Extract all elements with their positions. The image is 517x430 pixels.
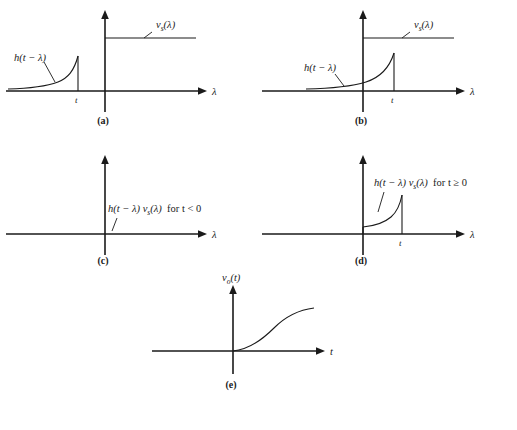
panel-e-x-axis-label: t [330,346,334,357]
panel-b-impulse-label: h(t − λ) [304,62,337,74]
figure-container: h(t − λ) vs(λ) λ t (a) [0,0,517,430]
panel-b-source-leader-line [402,32,410,38]
panel-b-x-axis-label: λ [469,86,475,97]
panel-d-x-axis-arrowhead [456,230,465,238]
panel-e-plot: vo(t) t (e) [128,270,390,430]
panel-a-x-axis-label: λ [211,86,217,97]
panel-a-impulse-label: h(t − λ) [14,52,47,64]
panel-a-source-label: vs(λ) [156,19,176,33]
panel-e-letter: (e) [225,379,236,391]
panel-b: h(t − λ) vs(λ) λ t (b) [258,0,517,138]
panel-a-tick-label-t: t [75,95,78,105]
panel-c: h(t − λ) vs(λ) for t < 0 λ (c) [0,140,256,270]
panel-e-output-curve [233,308,314,351]
panel-b-letter: (b) [355,115,367,127]
panel-d-product-label: h(t − λ) vs(λ) for t ≥ 0 [374,177,467,191]
panel-e-x-axis-arrowhead [316,347,325,355]
panel-c-x-axis-label: λ [211,229,217,240]
panel-b-tick-label-t: t [391,95,394,105]
panel-d-product-curve [363,195,402,227]
panel-c-y-axis-arrowhead [101,155,109,164]
panel-e-y-axis-arrowhead [229,285,237,294]
panel-b-impulse-leader-line [335,74,344,86]
panel-c-x-axis-arrowhead [198,230,207,238]
panel-a-letter: (a) [97,115,109,127]
panel-c-letter: (c) [97,255,108,267]
panel-a-source-leader-line [144,32,152,38]
panel-d-x-axis-label: λ [469,229,475,240]
panel-a: h(t − λ) vs(λ) λ t (a) [0,0,256,138]
panel-d-product-leader-line [378,192,384,212]
panel-d-tick-label-t: t [399,238,402,248]
panel-e-output-label: vo(t) [222,272,241,286]
panel-c-product-leader-line [112,218,117,231]
panel-b-x-axis-arrowhead [456,87,465,95]
panel-c-product-label: h(t − λ) vs(λ) for t < 0 [108,203,201,217]
panel-b-plot: h(t − λ) vs(λ) λ t (b) [258,0,517,138]
panel-d: h(t − λ) vs(λ) for t ≥ 0 λ t (d) [258,140,517,270]
panel-a-y-axis-arrowhead [101,10,109,19]
panel-d-y-axis-arrowhead [359,155,367,164]
panel-d-letter: (d) [355,255,367,267]
panel-d-plot: h(t − λ) vs(λ) for t ≥ 0 λ t (d) [258,140,517,270]
panel-b-y-axis-arrowhead [359,10,367,19]
panel-a-impulse-leader-line [44,62,55,82]
panel-a-plot: h(t − λ) vs(λ) λ t (a) [0,0,256,138]
panel-e: vo(t) t (e) [128,270,390,430]
panel-c-plot: h(t − λ) vs(λ) for t < 0 λ (c) [0,140,256,270]
panel-b-source-label: vs(λ) [414,19,434,33]
panel-a-x-axis-arrowhead [198,87,207,95]
